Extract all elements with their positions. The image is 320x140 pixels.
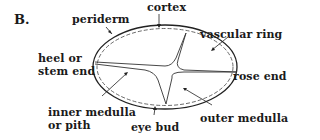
outer-medulla-leader bbox=[185, 89, 212, 105]
inner-medulla-leader bbox=[102, 73, 127, 96]
label-inner-medulla-line2: or pith bbox=[48, 120, 91, 132]
inner-medulla-shape bbox=[95, 33, 237, 104]
label-inner-medulla-line1: inner medulla bbox=[48, 107, 136, 119]
label-heel-line1: heel or bbox=[38, 53, 82, 65]
label-periderm: periderm bbox=[72, 14, 130, 26]
label-rose-end: rose end bbox=[233, 71, 287, 83]
label-vascular-ring: vascular ring bbox=[200, 29, 282, 41]
label-heel-line2: stem end bbox=[38, 66, 95, 78]
label-outer-medulla: outer medulla bbox=[200, 113, 288, 125]
label-cortex: cortex bbox=[147, 2, 186, 14]
label-eye-bud: eye bud bbox=[131, 122, 179, 134]
